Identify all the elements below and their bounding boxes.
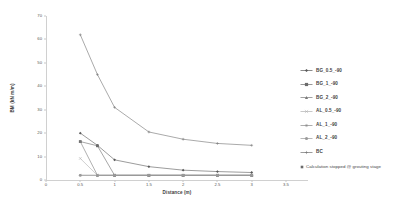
annotation-text: Calculation stopped @ grouting stage xyxy=(306,165,381,169)
x-tick-mark xyxy=(217,180,218,182)
series-line xyxy=(80,35,251,146)
data-point-marker xyxy=(147,165,150,168)
data-point-marker xyxy=(147,174,150,177)
series-BC xyxy=(79,33,253,146)
data-point-marker xyxy=(182,169,185,172)
chart-figure: 010203040506070 00.511.522.533.5 BM (kN … xyxy=(0,0,406,211)
series-BG_1_-90 xyxy=(79,140,253,177)
legend-marker-icon xyxy=(300,149,313,156)
series-line xyxy=(80,142,251,176)
chart-legend: BG_0.5_-90BG_1_-90BG_2_-90AL_0.5_-90AL_1… xyxy=(300,64,404,170)
series-BG_0.5_-90 xyxy=(79,132,253,174)
x-tick-mark xyxy=(148,180,149,182)
annotation-marker-icon xyxy=(300,165,304,169)
series-AL_0.5_-90 xyxy=(79,157,253,177)
data-point-marker xyxy=(79,33,82,36)
legend-item-AL_1_-90[interactable]: AL_1_-90 xyxy=(300,118,404,132)
legend-item-AL_2_-90[interactable]: AL_2_-90 xyxy=(300,132,404,146)
x-tick-label: 3.5 xyxy=(283,183,289,187)
legend-label: AL_2_-90 xyxy=(316,136,337,141)
legend-label: BG_1_-90 xyxy=(316,82,338,87)
legend-item-BG_1_-90[interactable]: BG_1_-90 xyxy=(300,78,404,92)
x-tick-mark xyxy=(183,180,184,182)
legend-item-BG_2_-90[interactable]: BG_2_-90 xyxy=(300,91,404,105)
legend-label: BC xyxy=(316,150,323,155)
x-tick-label: 0 xyxy=(45,183,47,187)
legend-marker-icon xyxy=(300,135,313,142)
data-point-marker xyxy=(305,124,308,127)
legend-item-AL_0.5_-90[interactable]: AL_0.5_-90 xyxy=(300,105,404,119)
legend-annotation: Calculation stopped @ grouting stage xyxy=(300,165,404,169)
data-point-marker xyxy=(305,69,308,72)
x-tick-label: 2 xyxy=(182,183,184,187)
series-line xyxy=(80,133,251,172)
x-tick-label: 1 xyxy=(113,183,115,187)
series-line xyxy=(80,142,251,176)
x-tick-mark xyxy=(114,180,115,182)
x-tick-label: 0.5 xyxy=(77,183,83,187)
x-axis-line xyxy=(46,180,308,181)
legend-label: AL_0.5_-90 xyxy=(316,109,341,114)
legend-marker-icon xyxy=(300,94,313,101)
legend-marker-icon xyxy=(300,108,313,115)
legend-label: AL_1_-90 xyxy=(316,123,337,128)
x-tick-mark xyxy=(80,180,81,182)
data-point-marker xyxy=(305,137,308,140)
legend-item-BC[interactable]: BC xyxy=(300,146,404,160)
series-plot-layer xyxy=(46,16,286,180)
x-tick-mark xyxy=(251,180,252,182)
data-point-marker xyxy=(96,144,99,147)
data-point-marker xyxy=(79,174,82,177)
x-tick-label: 2.5 xyxy=(215,183,221,187)
data-point-marker xyxy=(216,170,219,173)
x-tick-mark xyxy=(46,180,47,182)
series-AL_2_-90 xyxy=(79,174,253,177)
legend-label: BG_2_-90 xyxy=(316,96,338,101)
data-point-marker xyxy=(216,174,219,177)
legend-label: BG_0.5_-90 xyxy=(316,69,342,74)
data-point-marker xyxy=(216,142,219,145)
data-point-marker xyxy=(305,83,308,86)
data-point-marker xyxy=(79,157,82,160)
data-point-marker xyxy=(305,151,308,154)
data-point-marker xyxy=(182,138,185,141)
data-point-marker xyxy=(250,144,253,147)
data-point-marker xyxy=(96,174,99,177)
data-point-marker xyxy=(250,171,253,174)
legend-marker-icon xyxy=(300,67,313,74)
legend-marker-icon xyxy=(300,122,313,129)
data-point-marker xyxy=(301,166,304,169)
x-tick-label: 3 xyxy=(251,183,253,187)
legend-item-BG_0.5_-90[interactable]: BG_0.5_-90 xyxy=(300,64,404,78)
x-tick-label: 1.5 xyxy=(146,183,152,187)
data-point-marker xyxy=(182,174,185,177)
x-axis-title: Distance (m) xyxy=(163,190,192,195)
y-axis-title: BM (kN m/m) xyxy=(10,83,15,112)
data-point-marker xyxy=(113,174,116,177)
legend-marker-icon xyxy=(300,81,313,88)
data-point-marker xyxy=(96,73,99,76)
data-point-marker xyxy=(250,174,253,177)
x-tick-mark xyxy=(286,180,287,182)
